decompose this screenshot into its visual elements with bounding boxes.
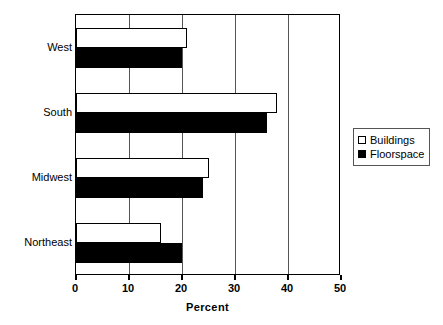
x-tick-label-40: 40 — [281, 282, 293, 294]
tick-0 — [75, 275, 77, 280]
bar-chart: 01020304050 NortheastMidwestSouthWest Pe… — [0, 0, 443, 325]
y-label-west: West — [47, 41, 72, 53]
legend-item-floorspace: Floorspace — [358, 147, 424, 161]
y-label-midwest: Midwest — [32, 171, 72, 183]
tick-50 — [340, 275, 342, 280]
tick-20 — [181, 275, 183, 280]
x-tick-label-20: 20 — [175, 282, 187, 294]
bar-west-buildings — [76, 28, 187, 48]
bar-midwest-buildings — [76, 158, 209, 178]
tick-30 — [234, 275, 236, 280]
y-label-northeast: Northeast — [24, 236, 72, 248]
bar-northeast-floorspace — [76, 243, 182, 263]
y-label-south: South — [43, 106, 72, 118]
filled-square-icon — [358, 150, 366, 158]
gridline-30 — [235, 15, 236, 274]
gridline-40 — [288, 15, 289, 274]
legend-label-buildings: Buildings — [370, 135, 415, 146]
legend-item-buildings: Buildings — [358, 133, 424, 147]
bar-south-floorspace — [76, 113, 267, 133]
chart-legend: Buildings Floorspace — [353, 128, 430, 166]
bar-midwest-floorspace — [76, 178, 203, 198]
tick-40 — [287, 275, 289, 280]
gridline-20 — [182, 15, 183, 274]
bar-south-buildings — [76, 93, 277, 113]
x-tick-label-10: 10 — [122, 282, 134, 294]
plot-area — [75, 14, 340, 275]
legend-label-floorspace: Floorspace — [370, 149, 424, 160]
bar-west-floorspace — [76, 48, 182, 68]
x-axis-title: Percent — [75, 301, 340, 313]
bar-northeast-buildings — [76, 223, 161, 243]
x-tick-label-50: 50 — [334, 282, 346, 294]
open-square-icon — [358, 136, 366, 144]
x-tick-label-30: 30 — [228, 282, 240, 294]
x-tick-label-0: 0 — [72, 282, 78, 294]
tick-10 — [128, 275, 130, 280]
